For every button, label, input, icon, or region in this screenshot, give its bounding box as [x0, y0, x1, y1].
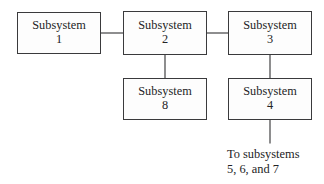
node-subsystem-8-label-line-1: Subsystem	[138, 85, 192, 99]
node-subsystem-1: Subsystem 1	[17, 12, 101, 54]
caption-to-subsystems-line-2: 5, 6, and 7	[227, 162, 299, 177]
node-subsystem-3: Subsystem 3	[228, 11, 312, 55]
node-subsystem-3-label-line-2: 3	[267, 33, 273, 47]
node-subsystem-8-label-line-2: 8	[162, 99, 168, 113]
caption-to-subsystems: To subsystems 5, 6, and 7	[227, 147, 299, 176]
node-subsystem-1-label-line-2: 1	[56, 33, 62, 47]
caption-to-subsystems-line-1: To subsystems	[227, 147, 299, 162]
node-subsystem-2: Subsystem 2	[123, 11, 207, 55]
node-subsystem-4: Subsystem 4	[228, 78, 312, 120]
node-subsystem-1-label-line-1: Subsystem	[32, 19, 86, 33]
block-diagram-canvas: Subsystem 1 Subsystem 2 Subsystem 3 Subs…	[0, 0, 324, 184]
node-subsystem-4-label-line-1: Subsystem	[243, 85, 297, 99]
node-subsystem-4-label-line-2: 4	[267, 99, 273, 113]
node-subsystem-2-label-line-2: 2	[162, 33, 168, 47]
node-subsystem-8: Subsystem 8	[123, 78, 207, 120]
node-subsystem-2-label-line-1: Subsystem	[138, 19, 192, 33]
node-subsystem-3-label-line-1: Subsystem	[243, 19, 297, 33]
